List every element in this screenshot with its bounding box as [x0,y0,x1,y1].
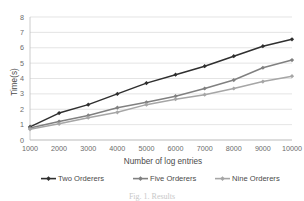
data-series-group [28,37,294,131]
series-3 [28,74,294,131]
legend-marker [138,176,143,181]
legend-label: Five Orderers [150,174,197,183]
data-point-marker [115,110,119,114]
y-tick-label: 3 [20,89,24,98]
x-tick-label: 9000 [255,144,271,153]
x-tick-label: 1000 [22,144,38,153]
legend-label: Nine Orderers [232,174,280,183]
y-tick-label: 1 [20,120,24,129]
y-tick-label: 7 [20,28,24,37]
y-tick-label: 4 [20,74,24,83]
data-point-marker [86,103,90,107]
legend-marker [220,176,225,181]
data-point-marker [173,97,177,101]
y-axis-title: Time(s) [10,68,19,96]
x-tick-label: 4000 [109,144,125,153]
series-line [30,76,292,129]
data-point-marker [144,81,148,85]
data-point-marker [261,79,265,83]
series-line [30,39,292,127]
y-tick-label: 6 [20,43,24,52]
y-tick-label: 5 [20,59,24,68]
chart-legend: Two OrderersFive OrderersNine Orderers [41,174,280,183]
data-point-marker [261,66,265,70]
legend-marker [46,176,51,181]
data-point-marker [173,73,177,77]
data-point-marker [115,92,119,96]
data-point-marker [203,64,207,68]
data-point-marker [290,37,294,41]
y-tick-label: 8 [20,13,24,22]
x-tick-label: 2000 [51,144,67,153]
x-tick-label: 10000 [282,144,302,153]
line-chart-figure: 012345678 100020003000400050006000700080… [0,0,304,201]
x-tick-label: 3000 [80,144,96,153]
data-point-marker [203,86,207,90]
x-tick-label: 5000 [138,144,154,153]
x-axis-tick-labels: 1000200030004000500060007000800090001000… [22,144,302,153]
legend-item-3[interactable]: Nine Orderers [215,174,280,183]
x-axis-title: Number of log entries [124,157,202,166]
data-point-marker [232,54,236,58]
figure-caption: Fig. 1. Results [129,192,175,201]
legend-label: Two Orderers [58,174,104,183]
y-axis-tick-labels: 012345678 [20,13,24,145]
data-point-marker [203,93,207,97]
x-tick-label: 6000 [168,144,184,153]
x-tick-label: 7000 [197,144,213,153]
y-tick-label: 2 [20,105,24,114]
data-point-marker [232,86,236,90]
x-tick-label: 8000 [226,144,242,153]
chart-canvas: 012345678 100020003000400050006000700080… [0,0,304,201]
legend-item-2[interactable]: Five Orderers [133,174,197,183]
legend-item-1[interactable]: Two Orderers [41,174,104,183]
data-point-marker [290,58,294,62]
data-point-marker [290,74,294,78]
